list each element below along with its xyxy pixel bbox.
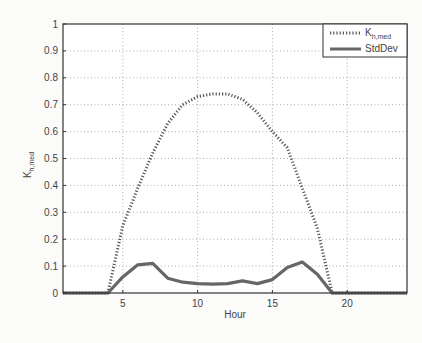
y-tick-label: 0.1: [44, 261, 58, 272]
y-tick-label: 0: [52, 288, 58, 299]
y-tick-label: 1: [52, 19, 58, 30]
y-tick-label: 0.2: [44, 234, 58, 245]
svg-text:Kh,med: Kh,med: [22, 152, 35, 178]
x-axis-label: Hour: [224, 309, 246, 320]
x-tick-label: 5: [120, 298, 126, 309]
y-tick-label: 0.3: [44, 207, 58, 218]
x-tick-label: 10: [192, 298, 204, 309]
y-tick-label: 0.4: [44, 180, 58, 191]
y-tick-label: 0.7: [44, 99, 58, 110]
line-chart: 00.10.20.30.40.50.60.70.80.91 5101520 Ho…: [0, 0, 422, 343]
y-axis-label: Kh,med: [22, 152, 35, 178]
y-tick-label: 0.6: [44, 126, 58, 137]
legend-label-khmed-sub: h,med: [372, 33, 392, 40]
y-tick-label: 0.5: [44, 153, 58, 164]
y-tick-label: 0.9: [44, 45, 58, 56]
y-axis-label-sub: h,med: [28, 152, 35, 172]
legend-label-stddev: StdDev: [365, 43, 398, 54]
x-tick-label: 15: [267, 298, 279, 309]
legend: Kh,med StdDev: [323, 24, 407, 57]
y-tick-label: 0.8: [44, 72, 58, 83]
x-tick-label: 20: [342, 298, 354, 309]
